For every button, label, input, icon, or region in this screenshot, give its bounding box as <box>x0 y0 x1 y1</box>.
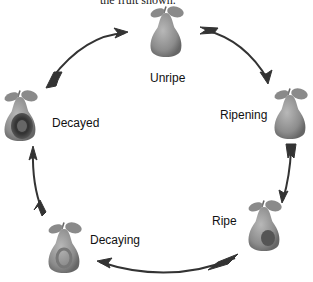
pear-decayed-icon <box>3 89 39 141</box>
pear-life-cycle-diagram <box>0 0 313 282</box>
pear-unripe-icon <box>149 5 185 57</box>
pear-ripe-icon <box>247 199 283 251</box>
label-ripening: Ripening <box>220 108 267 122</box>
arrow-ripening-to-ripe <box>279 144 296 203</box>
arrow-unripe-to-ripening <box>200 27 272 84</box>
label-decayed: Decayed <box>52 116 99 130</box>
arrow-decayed-to-unripe <box>46 28 128 88</box>
arrow-decaying-to-decayed <box>29 146 46 216</box>
label-ripe: Ripe <box>212 214 237 228</box>
label-unripe: Unripe <box>150 71 185 85</box>
label-decaying: Decaying <box>90 233 140 247</box>
pear-ripening-icon <box>273 87 309 139</box>
arrow-ripe-to-decaying <box>97 254 238 273</box>
pear-decaying-icon <box>47 221 83 273</box>
